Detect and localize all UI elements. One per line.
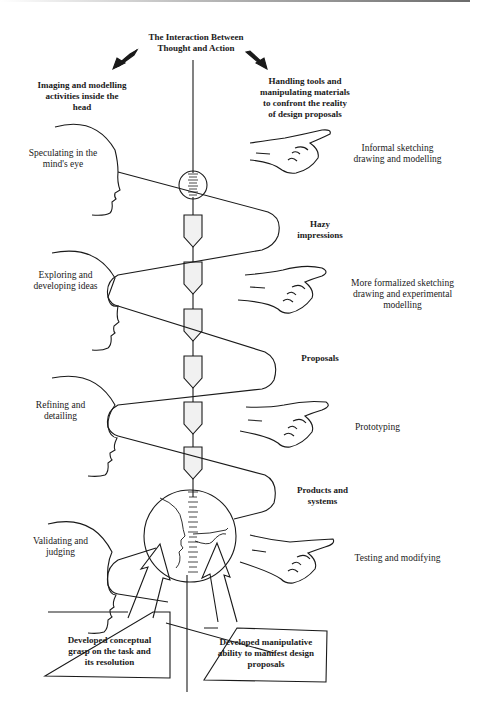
valve-icon [184,356,202,388]
head-stage-label-1: Speculating in the mind's eye [18,148,108,170]
valve-icon [184,262,202,294]
valve-icon [184,215,202,247]
head-stage-label-3: Refining and detailing [18,400,103,422]
hand-stage-label-4: Testing and modifying [340,553,455,564]
hand-icon-1 [250,130,330,173]
hand-icon-4 [240,535,334,583]
left-box-text: Developed conceptual grasp on the task a… [52,635,167,668]
valve-icon [184,447,202,479]
hand-stage-label-3: Prototyping [340,422,415,433]
arrow-left-down-icon [113,50,137,69]
left-heading: Imaging and modelling activities inside … [22,80,142,113]
head-stage-label-4: Validating and judging [18,536,103,558]
hand-stage-label-2: More formalized sketching drawing and ex… [340,278,465,311]
outcome-label-products: Products and systems [285,485,360,507]
head-icon-3 [52,376,117,476]
outcome-label-proposals: Proposals [290,353,350,364]
hand-stage-label-1: Informal sketching drawing and modelling [340,143,455,165]
validation-sphere [144,490,236,582]
outcome-label-hazy: Hazy impressions [290,219,350,241]
head-icon-2 [52,251,119,350]
head-stage-label-2: Exploring and developing ideas [18,270,113,292]
diagram-title: The Interaction Between Thought and Acti… [136,32,256,54]
valve-icon [184,402,202,434]
valve-icon [184,309,202,341]
hand-icon-3 [240,401,328,447]
right-box-text: Developed manipulative ability to manife… [206,637,326,670]
right-heading: Handling tools and manipulating material… [240,76,370,120]
hand-icon-2 [238,266,326,313]
